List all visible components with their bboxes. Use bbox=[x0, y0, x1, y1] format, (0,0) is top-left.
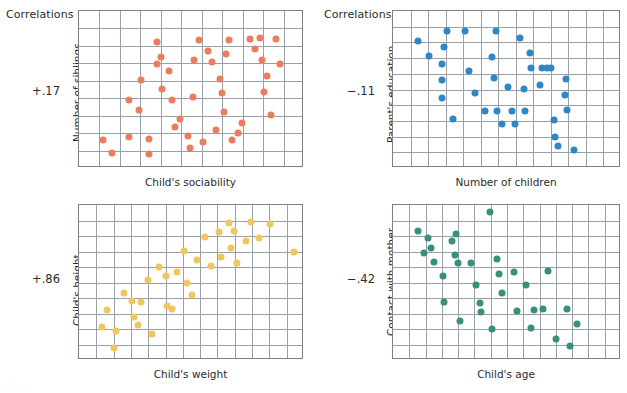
scatter-point bbox=[247, 36, 254, 43]
scatter-point bbox=[225, 219, 232, 226]
scatter-point bbox=[476, 299, 483, 306]
scatter-point bbox=[256, 234, 263, 241]
panel-contact-vs-age: −.42 Contact with mother Child's age bbox=[313, 196, 627, 393]
scatter-point bbox=[205, 48, 212, 55]
scatter-point bbox=[177, 115, 184, 122]
scatter-point bbox=[451, 251, 458, 258]
scatter-point bbox=[199, 139, 206, 146]
scatter-point bbox=[134, 322, 141, 329]
panel-4-plot-area bbox=[392, 204, 620, 359]
scatter-point bbox=[461, 28, 468, 35]
panel-2-data-points bbox=[393, 11, 619, 166]
scatter-point bbox=[489, 326, 496, 333]
scatter-point bbox=[259, 56, 266, 63]
scatter-point bbox=[155, 264, 162, 271]
scatter-point bbox=[128, 298, 135, 305]
scatter-point bbox=[452, 230, 459, 237]
scatter-point bbox=[196, 37, 203, 44]
scatter-point bbox=[441, 298, 448, 305]
scatter-point bbox=[439, 95, 446, 102]
scatter-point bbox=[491, 74, 498, 81]
scatter-point bbox=[553, 336, 560, 343]
scatter-point bbox=[489, 53, 496, 60]
scatter-point bbox=[185, 132, 192, 139]
scatter-point bbox=[499, 121, 506, 128]
scatter-point bbox=[450, 115, 457, 122]
scatter-point bbox=[496, 270, 503, 277]
scatter-point bbox=[508, 107, 515, 114]
scatter-point bbox=[511, 121, 518, 128]
scatter-point bbox=[499, 289, 506, 296]
scatter-point bbox=[234, 129, 241, 136]
scatter-point bbox=[425, 234, 432, 241]
scatter-point bbox=[202, 233, 209, 240]
scatter-point bbox=[137, 77, 144, 84]
scatter-point bbox=[441, 44, 448, 51]
scatter-point bbox=[564, 106, 571, 113]
scatter-point bbox=[173, 268, 180, 275]
scatter-point bbox=[449, 238, 456, 245]
scatter-point bbox=[420, 250, 427, 257]
scatter-point bbox=[551, 133, 558, 140]
scatter-point bbox=[571, 146, 578, 153]
panel-height-vs-weight: +.86 Child's height Child's weight bbox=[0, 196, 313, 393]
scatter-point bbox=[440, 273, 447, 280]
scatter-point bbox=[188, 291, 195, 298]
scatter-point bbox=[415, 37, 422, 44]
scatter-point bbox=[526, 49, 533, 56]
scatter-point bbox=[439, 77, 446, 84]
scatter-point bbox=[260, 88, 267, 95]
scatter-point bbox=[159, 85, 166, 92]
scatter-point bbox=[439, 60, 446, 67]
scatter-point bbox=[169, 305, 176, 312]
scatter-point bbox=[467, 260, 474, 267]
scatter-point bbox=[522, 107, 529, 114]
scatter-point bbox=[555, 143, 562, 150]
scatter-point bbox=[149, 331, 156, 338]
panel-2-caption: Correlations bbox=[324, 8, 392, 21]
scatter-point bbox=[563, 76, 570, 83]
scatter-point bbox=[239, 120, 246, 127]
scatter-point bbox=[516, 35, 523, 42]
scatter-point bbox=[277, 60, 284, 67]
scatter-point bbox=[125, 134, 132, 141]
scatter-point bbox=[180, 247, 187, 254]
scatter-point bbox=[540, 305, 547, 312]
scatter-point bbox=[131, 313, 138, 320]
scatter-point bbox=[426, 52, 433, 59]
panel-4-data-points bbox=[393, 205, 619, 358]
scatter-point bbox=[125, 96, 132, 103]
scatter-point bbox=[227, 245, 234, 252]
scatter-point bbox=[108, 150, 115, 157]
panel-2-plot-area bbox=[392, 10, 620, 167]
scatter-point bbox=[527, 325, 534, 332]
correlation-scatterplot-figure: Correlations +.17 Number of siblings Chi… bbox=[0, 0, 627, 393]
scatter-point bbox=[431, 258, 438, 265]
scatter-point bbox=[153, 38, 160, 45]
scatter-point bbox=[144, 277, 151, 284]
scatter-point bbox=[215, 229, 222, 236]
figure-footer-note: Figure bbox=[6, 383, 30, 392]
panel-3-correlation-value: +.86 bbox=[8, 272, 60, 286]
scatter-point bbox=[482, 107, 489, 114]
panel-1-correlation-value: +.17 bbox=[8, 84, 60, 98]
scatter-point bbox=[548, 65, 555, 72]
scatter-point bbox=[505, 84, 512, 91]
scatter-point bbox=[137, 298, 144, 305]
scatter-point bbox=[184, 280, 191, 287]
scatter-point bbox=[223, 51, 230, 58]
scatter-point bbox=[290, 248, 297, 255]
scatter-point bbox=[171, 124, 178, 131]
scatter-point bbox=[493, 256, 500, 263]
scatter-point bbox=[189, 93, 196, 100]
scatter-point bbox=[145, 150, 152, 157]
scatter-point bbox=[457, 318, 464, 325]
scatter-point bbox=[268, 111, 275, 118]
scatter-point bbox=[169, 96, 176, 103]
scatter-point bbox=[531, 307, 538, 314]
scatter-point bbox=[473, 281, 480, 288]
scatter-point bbox=[121, 289, 128, 296]
scatter-point bbox=[194, 257, 201, 264]
panel-1-x-axis-label: Child's sociability bbox=[78, 176, 303, 188]
scatter-point bbox=[443, 28, 450, 35]
